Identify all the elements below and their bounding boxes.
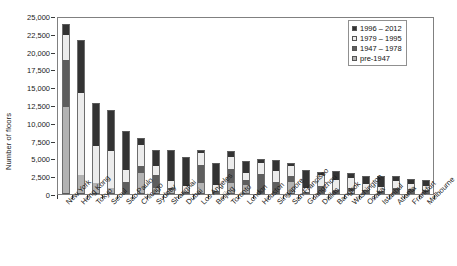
- bar-segment: [62, 24, 70, 35]
- y-axis-tick-mark: [51, 142, 55, 143]
- y-axis-tick-label: 2,500: [31, 173, 50, 182]
- bar-slot: [163, 18, 178, 194]
- y-axis-tick-labels: 02,5005,0007,50010,00012,50015,00017,500…: [13, 0, 55, 266]
- bar-segment: [122, 170, 130, 182]
- legend-item[interactable]: 1947 – 1978: [352, 43, 402, 53]
- bar-slot: [208, 18, 223, 194]
- bar-segment: [272, 160, 280, 171]
- legend-swatch-icon: [352, 26, 357, 31]
- y-axis-tick-label: 20,000: [27, 48, 50, 57]
- y-axis-tick-label: 22,500: [27, 30, 50, 39]
- legend-label: 1996 – 2012: [360, 24, 402, 33]
- y-axis-tick-mark: [51, 159, 55, 160]
- y-axis-tick-label: 17,500: [27, 66, 50, 75]
- bar-segment: [137, 166, 145, 173]
- bar-segment: [92, 103, 100, 146]
- y-axis-tick-label: 15,000: [27, 84, 50, 93]
- legend-item[interactable]: pre-1947: [352, 53, 402, 63]
- y-axis-tick-mark: [51, 35, 55, 36]
- legend-swatch-icon: [352, 56, 357, 61]
- stacked-bar[interactable]: [122, 131, 130, 194]
- y-axis-tick-mark: [51, 70, 55, 71]
- x-axis-tick-mark: [57, 195, 58, 199]
- x-axis-tick-labels: New YorkHong KongTokyoSeoulSao PauloChic…: [57, 200, 434, 266]
- y-axis-tick-mark: [51, 17, 55, 18]
- y-axis-tick-label: 5,000: [31, 155, 50, 164]
- bar-slot: [193, 18, 208, 194]
- legend-swatch-icon: [352, 46, 357, 51]
- bar-segment: [107, 110, 115, 151]
- bar-segment: [122, 131, 130, 169]
- bar-segment: [92, 146, 100, 183]
- stacked-bar[interactable]: [62, 24, 70, 194]
- y-axis-tick-label: 0: [46, 191, 50, 200]
- bar-segment: [137, 138, 145, 145]
- bar-slot: [238, 18, 253, 194]
- legend-item[interactable]: 1996 – 2012: [352, 23, 402, 33]
- bar-segment: [242, 173, 250, 180]
- bar-segment: [137, 145, 145, 166]
- bar-segment: [152, 166, 160, 175]
- bar-segment: [197, 153, 205, 165]
- bar-slot: [298, 18, 313, 194]
- bar-slot: [133, 18, 148, 194]
- bar-segment: [287, 166, 295, 177]
- bar-slot: [223, 18, 238, 194]
- legend-label: pre-1947: [360, 54, 390, 63]
- bar-slot: [58, 18, 73, 194]
- bar-segment: [62, 60, 70, 107]
- bar-segment: [242, 161, 250, 173]
- bar-slot: [118, 18, 133, 194]
- bar-slot: [178, 18, 193, 194]
- bar-segment: [152, 150, 160, 166]
- bar-slot: [88, 18, 103, 194]
- y-axis-tick-label: 10,000: [27, 119, 50, 128]
- bar-segment: [77, 40, 85, 93]
- y-axis-tick-mark: [51, 195, 55, 196]
- legend-item[interactable]: 1979 – 1995: [352, 33, 402, 43]
- bar-slot: [103, 18, 118, 194]
- y-axis-tick-mark: [51, 106, 55, 107]
- bar-segment: [227, 157, 235, 169]
- legend-label: 1947 – 1978: [360, 44, 402, 53]
- bar-slot: [268, 18, 283, 194]
- bar-segment: [62, 35, 70, 60]
- y-axis-tick-mark: [51, 124, 55, 125]
- bar-segment: [197, 165, 205, 183]
- bar-slot: [283, 18, 298, 194]
- y-axis-tick-label: 7,500: [31, 137, 50, 146]
- bar-segment: [167, 150, 175, 181]
- y-axis-tick-mark: [51, 88, 55, 89]
- bar-slot: [73, 18, 88, 194]
- bar-segment: [257, 163, 265, 174]
- legend: 1996 – 20121979 – 19951947 – 1978pre-194…: [348, 20, 407, 66]
- bar-segment: [77, 93, 85, 175]
- y-axis-tick-mark: [51, 53, 55, 54]
- y-axis-tick-mark: [51, 177, 55, 178]
- legend-label: 1979 – 1995: [360, 34, 402, 43]
- bar-slot: [418, 18, 433, 194]
- legend-swatch-icon: [352, 36, 357, 41]
- stacked-bar[interactable]: [77, 40, 85, 194]
- bar-slot: [328, 18, 343, 194]
- y-axis-tick-label: 25,000: [27, 13, 50, 22]
- bar-segment: [62, 107, 70, 194]
- y-axis-tick-label: 12,500: [27, 102, 50, 111]
- bar-slot: [148, 18, 163, 194]
- bar-slot: [253, 18, 268, 194]
